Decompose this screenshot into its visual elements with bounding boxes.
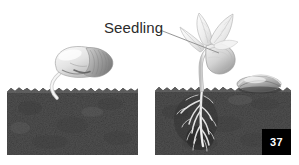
page-number-badge: 37	[262, 129, 291, 155]
left-soil-block	[7, 86, 138, 155]
discarded-seed-coat	[237, 75, 281, 94]
seedling-plant	[180, 13, 238, 90]
seedling-label: Seedling	[104, 19, 163, 36]
seed-germination-figure: Seedling 37	[0, 0, 299, 165]
